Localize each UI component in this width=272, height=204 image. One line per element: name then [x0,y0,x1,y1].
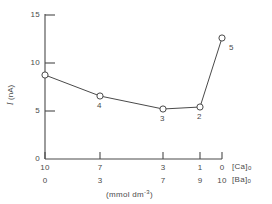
point-label-5: 5 [229,44,234,52]
x-tick-label-ba-2: 7 [153,177,173,185]
x-tick-label-ca-3: 1 [190,164,210,172]
data-point-marker[interactable] [42,72,48,78]
chart-figure: 15 10 5 0 I (nA) 10 7 3 1 0 [Ca]0 0 3 7 … [0,0,272,204]
x-tick-label-ba-4: 10 [212,177,232,185]
row-label-ba-sub: 0 [247,178,251,184]
point-label-3: 3 [160,115,165,123]
data-line-series-1 [45,38,222,109]
point-label-2: 2 [197,113,202,121]
x-tick-label-ba-3: 9 [190,177,210,185]
plot-area [0,0,272,204]
data-point-marker[interactable] [97,93,103,99]
x-tick-label-ca-0: 10 [35,164,55,172]
x-tick-label-ca-4: 0 [212,164,232,172]
y-axis-title-wrap: I (nA) [1,68,19,128]
data-point-marker[interactable] [160,106,166,112]
y-tick-label-10: 10 [22,59,40,67]
x-tick-label-ca-1: 7 [90,164,110,172]
x-axis-caption-tail: ) [150,190,153,199]
point-label-4: 4 [97,102,102,110]
data-point-marker[interactable] [197,104,203,110]
y-tick-label-0: 0 [22,155,40,163]
y-axis-symbol: I [5,102,15,105]
x-axis-caption: (mmol dm-3) [106,189,153,199]
x-tick-label-ba-0: 0 [35,177,55,185]
data-point-marker[interactable] [219,35,225,41]
x-axis-row-label-ba: [Ba]0 [232,176,251,184]
x-tick-label-ca-2: 3 [153,164,173,172]
y-axis-unit: (nA) [6,85,15,100]
y-axis-title: I (nA) [5,72,15,118]
row-label-ca-sub: 0 [248,165,252,171]
y-tick-label-5: 5 [22,107,40,115]
row-label-ca-main: [Ca] [232,162,248,171]
x-axis-row-label-ca: [Ca]0 [232,163,252,171]
x-axis-caption-main: (mmol dm [106,190,144,199]
y-tick-label-15: 15 [22,11,40,19]
row-label-ba-main: [Ba] [232,175,247,184]
x-tick-label-ba-1: 3 [90,177,110,185]
